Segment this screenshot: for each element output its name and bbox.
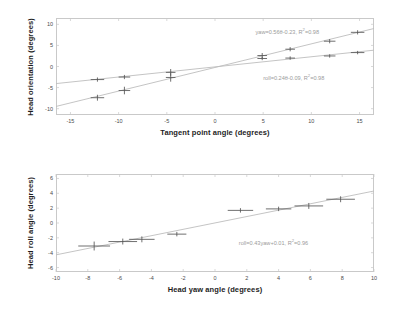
y-tick-label: 5 — [40, 42, 53, 48]
x-tick-label: 0 — [213, 118, 216, 124]
x-tick-label: 6 — [309, 275, 312, 281]
data-point-marker — [285, 47, 295, 51]
data-point-marker — [228, 208, 253, 212]
data-point-marker — [257, 57, 267, 60]
data-point-marker — [166, 69, 176, 76]
y-tick-label: 6 — [40, 175, 53, 181]
x-axis-title-bottom: Head yaw angle (degrees) — [168, 285, 263, 294]
y-tick-label: -2 — [40, 235, 53, 241]
data-point-marker — [326, 196, 355, 202]
x-tick-label: 10 — [308, 118, 314, 124]
x-tick-label: -2 — [181, 275, 186, 281]
data-point-marker — [91, 77, 104, 81]
x-tick-label: -10 — [52, 275, 60, 281]
x-tick-label: 4 — [277, 275, 280, 281]
x-tick-label: -10 — [115, 118, 123, 124]
y-tick-label: 10 — [40, 21, 53, 27]
data-point-marker — [266, 207, 291, 211]
roll-yaw-fit-equation: roll=0.43yaw+0.01, R2=0.96 — [239, 238, 308, 246]
x-tick-label: 10 — [371, 275, 377, 281]
x-tick-label: 8 — [341, 275, 344, 281]
roll-fit-equation: roll=0.24θ-0.09, R2=0.98 — [263, 73, 324, 81]
y-tick-label: 4 — [40, 190, 53, 196]
x-tick-label: -8 — [85, 275, 90, 281]
y-tick-label: -6 — [40, 265, 53, 271]
y-tick-label: 0 — [40, 220, 53, 226]
panel-head-orientation: -15-10-5051015-10-50510 Tangent point an… — [0, 0, 406, 152]
x-tick-label: -6 — [117, 275, 122, 281]
y-tick-label: 0 — [40, 64, 53, 70]
y-axis-title-top: Head orientation (degrees) — [26, 18, 35, 116]
data-point-marker — [167, 232, 186, 236]
x-tick-label: 15 — [356, 118, 362, 124]
x-tick-label: 5 — [262, 118, 265, 124]
y-tick-label: -4 — [40, 250, 53, 256]
x-tick-label: -5 — [164, 118, 169, 124]
panel-head-roll-vs-yaw: -10-8-6-4-20246810-6-4-20246 Head yaw an… — [0, 155, 406, 312]
x-tick-label: 2 — [245, 275, 248, 281]
y-tick-label: -5 — [40, 85, 53, 91]
data-point-marker — [119, 87, 131, 95]
y-tick-label: -10 — [40, 106, 53, 112]
yaw-fit-equation: yaw=0.56θ-0.23, R2=0.98 — [255, 27, 319, 35]
y-tick-label: 2 — [40, 205, 53, 211]
y-axis-title-bottom: Head roll angle (degrees) — [26, 177, 35, 269]
x-tick-label: -15 — [66, 118, 74, 124]
x-tick-label: 0 — [213, 275, 216, 281]
x-axis-title-top: Tangent point angle (degrees) — [160, 128, 269, 137]
data-point-marker — [324, 39, 336, 43]
data-point-marker — [295, 203, 324, 209]
x-tick-label: -4 — [149, 275, 154, 281]
data-point-marker — [91, 95, 104, 101]
figure-container: -15-10-5051015-10-50510 Tangent point an… — [0, 0, 406, 312]
